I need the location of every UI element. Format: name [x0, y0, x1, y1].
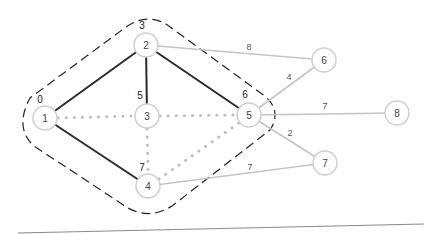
node-distance: 7 — [139, 162, 145, 173]
edge-3-4 — [147, 129, 148, 173]
node-8[interactable]: 8 — [385, 101, 409, 125]
edge-5-8 — [249, 113, 397, 115]
node-distance: 5 — [137, 90, 143, 101]
node-7[interactable]: 7 — [313, 151, 337, 175]
weight-label-4-7: 7 — [247, 162, 252, 172]
node-distance: 3 — [139, 20, 145, 31]
page-bottom-rule — [18, 224, 424, 233]
edge-1-2 — [45, 45, 146, 118]
node-1[interactable]: 1 0 — [33, 94, 57, 130]
edge-2-5 — [146, 45, 249, 115]
weight-label-5-7: 2 — [287, 128, 292, 138]
edge-2-6 — [146, 45, 324, 60]
node-label: 3 — [144, 111, 150, 122]
node-label: 7 — [322, 158, 328, 169]
node-label: 5 — [246, 110, 252, 121]
weight-label-2-6: 8 — [246, 42, 251, 52]
weight-label-5-6: 4 — [286, 72, 291, 82]
node-distance: 6 — [242, 89, 248, 100]
node-4[interactable]: 4 7 — [136, 162, 160, 198]
node-label: 6 — [321, 55, 327, 66]
edge-1-3 — [58, 116, 134, 118]
graph-diagram: 8 4 7 2 7 1 0 2 3 3 5 4 7 5 6 6 7 8 — [0, 0, 424, 234]
edge-5-7 — [249, 115, 325, 163]
node-label: 2 — [143, 40, 149, 51]
node-distance: 0 — [37, 94, 43, 105]
node-6[interactable]: 6 — [312, 48, 336, 72]
node-2[interactable]: 2 3 — [134, 20, 158, 57]
edge-1-4 — [45, 118, 148, 186]
edge-3-5 — [160, 115, 236, 116]
node-label: 1 — [42, 113, 48, 124]
node-5[interactable]: 5 6 — [237, 89, 261, 127]
edge-4-5 — [159, 123, 239, 179]
edge-4-7 — [148, 163, 325, 186]
node-label: 4 — [145, 181, 151, 192]
edge-5-6 — [249, 60, 324, 115]
node-label: 8 — [394, 108, 400, 119]
weight-label-5-8: 7 — [322, 101, 327, 111]
